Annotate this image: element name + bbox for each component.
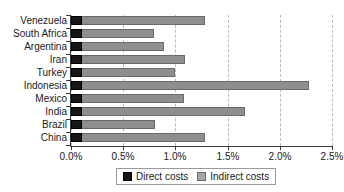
bar-segment-direct <box>71 42 82 51</box>
bar-segment-direct <box>71 55 82 64</box>
bar-segment-indirect <box>82 55 185 64</box>
bar-chart: Venezuela South Africa Argentina Iran Tu… <box>0 0 344 192</box>
bar-segment-indirect <box>82 120 155 129</box>
y-axis-label-mexico: Mexico <box>35 94 67 104</box>
bar-segment-indirect <box>82 42 164 51</box>
y-axis-label-south-africa: South Africa <box>13 29 67 39</box>
legend-item-indirect-costs: Indirect costs <box>197 171 269 182</box>
bar-segment-indirect <box>82 68 175 77</box>
y-axis-label-turkey: Turkey <box>37 68 67 78</box>
bar-segment-direct <box>71 133 82 142</box>
x-axis-label-1: 0.5% <box>98 151 148 162</box>
bar-segment-direct <box>71 81 82 90</box>
bar-row-south-africa <box>71 29 154 38</box>
y-axis-label-indonesia: Indonesia <box>24 81 67 91</box>
y-axis-label-venezuela: Venezuela <box>20 16 67 26</box>
y-axis-label-india: India <box>45 107 67 117</box>
bar-row-argentina <box>71 42 164 51</box>
bar-row-turkey <box>71 68 175 77</box>
bar-segment-indirect <box>82 94 184 103</box>
y-axis-label-argentina: Argentina <box>24 42 67 52</box>
legend-item-direct-costs: Direct costs <box>123 171 188 182</box>
gridline-5 <box>332 15 333 146</box>
bar-segment-direct <box>71 94 82 103</box>
y-axis-tick <box>66 145 71 146</box>
x-axis-tick <box>175 146 176 150</box>
bar-segment-direct <box>71 16 82 25</box>
bar-segment-indirect <box>82 81 309 90</box>
x-axis-tick <box>123 146 124 150</box>
x-axis-line <box>71 146 333 147</box>
bar-segment-direct <box>71 107 82 116</box>
x-axis-tick <box>71 146 72 150</box>
bar-segment-indirect <box>82 107 245 116</box>
y-axis-line <box>70 15 71 147</box>
bar-row-mexico <box>71 94 184 103</box>
y-axis-label-brazil: Brazil <box>42 120 67 130</box>
y-axis-label-china: China <box>41 133 67 143</box>
legend-label-direct-costs: Direct costs <box>136 171 188 182</box>
plot-area <box>71 15 332 146</box>
bar-row-brazil <box>71 120 155 129</box>
bar-segment-indirect <box>82 16 205 25</box>
bar-segment-direct <box>71 29 82 38</box>
legend-swatch-indirect-icon <box>197 172 206 181</box>
bar-segment-indirect <box>82 133 205 142</box>
bar-row-indonesia <box>71 81 309 90</box>
x-axis-tick <box>280 146 281 150</box>
legend-swatch-direct-icon <box>123 172 132 181</box>
bar-segment-direct <box>71 68 82 77</box>
chart-legend: Direct costs Indirect costs <box>116 168 276 185</box>
x-axis-tick <box>228 146 229 150</box>
y-axis-label-iran: Iran <box>50 55 67 65</box>
legend-label-indirect-costs: Indirect costs <box>210 171 269 182</box>
bar-segment-indirect <box>82 29 154 38</box>
x-axis-label-5: 2.5% <box>307 151 344 162</box>
bar-row-india <box>71 107 245 116</box>
bar-segment-direct <box>71 120 82 129</box>
x-axis-tick <box>332 146 333 150</box>
x-axis-label-0: 0.0% <box>46 151 96 162</box>
bar-row-china <box>71 133 205 142</box>
bar-row-venezuela <box>71 16 205 25</box>
x-axis-label-2: 1.0% <box>150 151 200 162</box>
x-axis-label-3: 1.5% <box>203 151 253 162</box>
bar-row-iran <box>71 55 185 64</box>
x-axis-label-4: 2.0% <box>255 151 305 162</box>
